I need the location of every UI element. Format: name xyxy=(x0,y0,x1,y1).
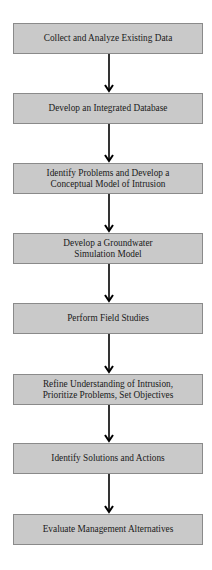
down-arrow-icon xyxy=(104,194,114,233)
step-box-collect-analyze-data: Collect and Analyze Existing Data xyxy=(13,23,203,54)
down-arrow-icon xyxy=(104,334,114,374)
step-label: Refine Understanding of Intrusion, Prior… xyxy=(43,379,174,400)
down-arrow-icon xyxy=(104,54,114,93)
down-arrow-icon xyxy=(104,405,114,443)
step-box-field-studies: Perform Field Studies xyxy=(13,303,203,334)
step-box-simulation-model: Develop a Groundwater Simulation Model xyxy=(13,233,203,264)
down-arrow-icon xyxy=(104,124,114,163)
step-label: Identify Solutions and Actions xyxy=(51,453,164,464)
step-label: Perform Field Studies xyxy=(67,313,149,324)
step-label: Evaluate Management Alternatives xyxy=(43,524,174,535)
down-arrow-icon xyxy=(104,264,114,303)
step-label: Identify Problems and Develop a Conceptu… xyxy=(47,168,170,189)
step-box-evaluate-alternatives: Evaluate Management Alternatives xyxy=(13,514,203,545)
step-label: Collect and Analyze Existing Data xyxy=(44,33,173,44)
step-box-integrated-database: Develop an Integrated Database xyxy=(13,93,203,124)
down-arrow-icon xyxy=(104,474,114,514)
step-box-identify-solutions: Identify Solutions and Actions xyxy=(13,443,203,474)
step-box-conceptual-model: Identify Problems and Develop a Conceptu… xyxy=(13,163,203,194)
step-label: Develop an Integrated Database xyxy=(49,103,168,114)
step-label: Develop a Groundwater Simulation Model xyxy=(63,238,152,259)
step-box-refine-understanding: Refine Understanding of Intrusion, Prior… xyxy=(13,374,203,405)
